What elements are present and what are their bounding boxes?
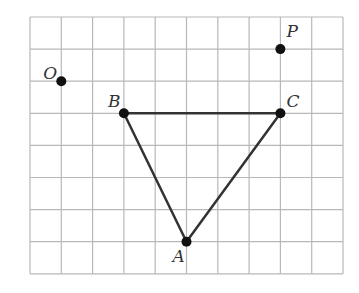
- grid-diagram: O P B C A: [0, 0, 359, 293]
- label-o: O: [43, 63, 57, 83]
- label-p: P: [285, 21, 298, 41]
- point-c: [275, 108, 285, 118]
- label-b: B: [107, 91, 121, 111]
- label-a: A: [171, 246, 185, 266]
- square-grid: [30, 17, 343, 274]
- label-c: C: [286, 91, 299, 111]
- point-p: [275, 44, 285, 54]
- point-o: [56, 76, 66, 86]
